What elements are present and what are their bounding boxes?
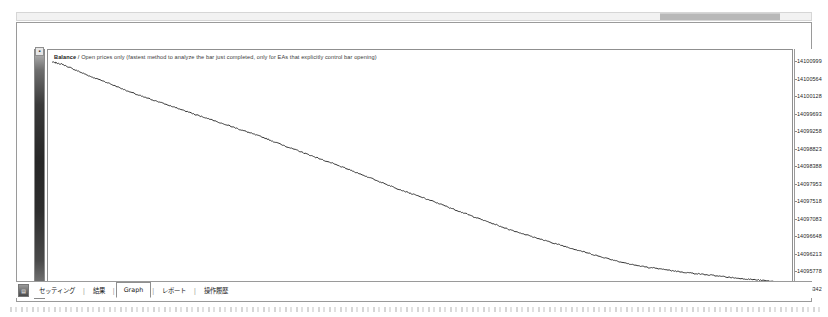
price-axis-tick [795, 166, 797, 167]
price-axis-tick [795, 219, 797, 220]
tester-icon[interactable]: ▤ [18, 284, 29, 297]
tab-item-4[interactable]: 操作履歴 [197, 283, 235, 299]
chart-plot-area [48, 60, 792, 297]
price-axis-tick [795, 114, 797, 115]
page-bottom-artifact [0, 303, 828, 317]
scan-artifact-band [10, 307, 820, 312]
balance-curve-svg [48, 60, 792, 297]
price-axis-tick [795, 149, 797, 150]
tab-item-1[interactable]: 結果 [86, 283, 112, 299]
price-axis-tick [795, 96, 797, 97]
price-axis-label: 14097518 [797, 198, 822, 204]
tab-item-3[interactable]: レポート [155, 283, 193, 299]
price-axis-label: 14097083 [797, 216, 822, 222]
price-axis-tick [795, 131, 797, 132]
scrollbar-thumb[interactable] [660, 13, 780, 20]
price-axis-label: 14097953 [797, 181, 822, 187]
price-axis-tick [795, 236, 797, 237]
price-axis-tick [795, 254, 797, 255]
tab-graph[interactable]: Graph [116, 282, 152, 298]
price-axis-tick [795, 184, 797, 185]
price-axis-label: 14100999 [797, 58, 822, 64]
price-axis-label: 14098388 [797, 163, 822, 169]
rail-top-button[interactable]: ▪ [35, 47, 44, 56]
price-axis-label: 14096213 [797, 251, 822, 257]
price-axis-label: 14099258 [797, 128, 822, 134]
balance-chart[interactable]: Balance / Open prices only (fastest meth… [47, 49, 793, 298]
price-axis-label: 14099693 [797, 111, 822, 117]
price-axis: 1410099914100564141001281409969314099258… [794, 49, 828, 298]
price-axis-tick [795, 79, 797, 80]
price-axis-tick [795, 61, 797, 62]
price-axis-label: 14098823 [797, 146, 822, 152]
tab-list: セッティング|結果|Graph|レポート|操作履歴 [32, 282, 235, 299]
price-axis-tick [795, 271, 797, 272]
price-axis-label: 14095778 [797, 268, 822, 274]
tab-item-0[interactable]: セッティング [32, 283, 82, 299]
tester-panel: ▪ ▪ Balance / Open prices only (fastest … [16, 22, 812, 302]
strategy-tester-window: ▪ ▪ Balance / Open prices only (fastest … [0, 0, 828, 317]
price-axis-label: 14100564 [797, 76, 822, 82]
tester-tabbar: ▤ セッティング|結果|Graph|レポート|操作履歴 [16, 281, 812, 298]
price-axis-label: 14096648 [797, 233, 822, 239]
tester-side-rail [34, 49, 45, 299]
price-axis-label: 14100128 [797, 93, 822, 99]
price-axis-tick [795, 201, 797, 202]
